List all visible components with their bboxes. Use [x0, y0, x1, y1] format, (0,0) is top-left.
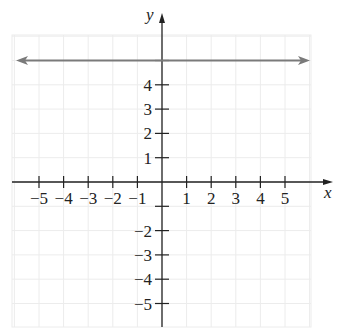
x-tick-label: 2	[207, 189, 216, 208]
y-tick-label: 4	[144, 76, 153, 95]
x-tick-label: −1	[128, 189, 146, 208]
x-tick-label: 3	[232, 189, 241, 208]
x-tick-labels: −5−4−3−2−112345	[30, 189, 289, 208]
y-tick-label: 1	[144, 149, 153, 168]
y-tick-label: 3	[144, 100, 153, 119]
y-tick-label: −5	[134, 295, 152, 314]
x-tick-label: 5	[281, 189, 290, 208]
y-tick-label: −2	[134, 222, 152, 241]
x-tick-label: −3	[79, 189, 97, 208]
y-tick-label: 2	[144, 124, 153, 143]
plotted-line-y-equals-5	[16, 56, 310, 65]
y-axis-arrow-icon	[159, 13, 165, 23]
x-axis-label: x	[323, 183, 332, 202]
coordinate-plane: −5−4−3−2−112345 −5−4−3−21234 x y	[0, 0, 343, 334]
x-tick-label: −5	[30, 189, 48, 208]
y-tick-label: −4	[134, 270, 153, 289]
x-tick-label: −4	[55, 189, 74, 208]
x-tick-label: −2	[104, 189, 122, 208]
x-tick-label: 1	[182, 189, 191, 208]
x-tick-label: 4	[256, 189, 265, 208]
y-tick-label: −3	[134, 246, 152, 265]
y-axis-label: y	[144, 5, 154, 24]
